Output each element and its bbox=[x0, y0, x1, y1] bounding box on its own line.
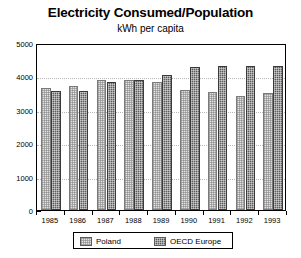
bar bbox=[41, 88, 51, 210]
bar-group bbox=[208, 45, 228, 210]
y-axis-tick-label: 0 bbox=[3, 207, 33, 216]
chart-subtitle: kWh per capita bbox=[0, 23, 301, 34]
bar-group bbox=[41, 45, 61, 210]
x-axis-tick bbox=[203, 211, 204, 215]
x-axis-tick bbox=[92, 211, 93, 215]
plot-area bbox=[36, 44, 286, 211]
x-axis-tick bbox=[36, 211, 37, 215]
bar bbox=[134, 80, 144, 210]
bar bbox=[79, 91, 89, 210]
bar-group bbox=[152, 45, 172, 210]
y-axis-tick-label: 5000 bbox=[3, 40, 33, 49]
y-axis-tick-label: 1000 bbox=[3, 173, 33, 182]
chart-legend: Poland OECD Europe bbox=[73, 232, 233, 249]
legend-entry-oecd-europe: OECD Europe bbox=[154, 236, 221, 247]
bar bbox=[152, 82, 162, 210]
bar bbox=[51, 91, 61, 210]
legend-label-oecd-europe: OECD Europe bbox=[170, 237, 221, 246]
bar bbox=[263, 93, 273, 210]
legend-swatch-oecd-europe bbox=[154, 237, 166, 246]
x-axis-tick bbox=[175, 211, 176, 215]
bar bbox=[180, 90, 190, 210]
y-axis-tick-label: 3000 bbox=[3, 106, 33, 115]
plot-inner bbox=[37, 45, 285, 210]
bar-group bbox=[97, 45, 117, 210]
bar bbox=[190, 67, 200, 210]
x-axis-tick bbox=[258, 211, 259, 215]
legend-label-poland: Poland bbox=[96, 237, 121, 246]
legend-swatch-poland bbox=[80, 237, 92, 246]
x-axis-tick bbox=[230, 211, 231, 215]
bar-group bbox=[69, 45, 89, 210]
bar bbox=[273, 66, 283, 210]
x-axis-tick-label: 1993 bbox=[255, 216, 289, 225]
bar-group bbox=[236, 45, 256, 210]
bar-group bbox=[124, 45, 144, 210]
bar bbox=[218, 66, 228, 210]
bar-group bbox=[180, 45, 200, 210]
y-axis-tick-label: 2000 bbox=[3, 140, 33, 149]
bar bbox=[124, 80, 134, 210]
bar bbox=[69, 86, 79, 210]
bar-group bbox=[263, 45, 283, 210]
bar bbox=[107, 82, 117, 210]
bar bbox=[97, 80, 107, 210]
bar bbox=[236, 96, 246, 210]
chart-figure: Electricity Consumed/Population kWh per … bbox=[0, 0, 301, 258]
x-axis-tick bbox=[64, 211, 65, 215]
bar bbox=[208, 92, 218, 210]
x-axis-tick bbox=[147, 211, 148, 215]
x-axis-tick bbox=[286, 211, 287, 215]
legend-entry-poland: Poland bbox=[80, 236, 121, 247]
y-axis-tick-label: 4000 bbox=[3, 73, 33, 82]
bar bbox=[246, 66, 256, 210]
bar bbox=[162, 75, 172, 210]
x-axis-tick bbox=[119, 211, 120, 215]
chart-title: Electricity Consumed/Population bbox=[0, 5, 301, 20]
